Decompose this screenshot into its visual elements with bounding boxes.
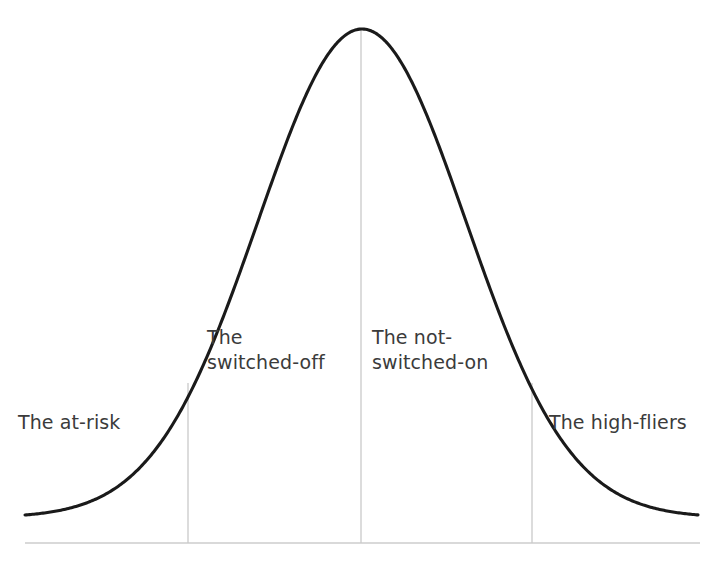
segment-label-at-risk: The at-risk	[18, 410, 120, 435]
distribution-curve-svg	[0, 0, 719, 561]
bell-curve-figure: The at-risk The switched-off The not- sw…	[0, 0, 719, 561]
segment-label-high-fliers: The high-fliers	[549, 410, 687, 435]
segment-label-switched-off: The switched-off	[207, 325, 325, 375]
segment-label-not-switched-on: The not- switched-on	[372, 325, 488, 375]
